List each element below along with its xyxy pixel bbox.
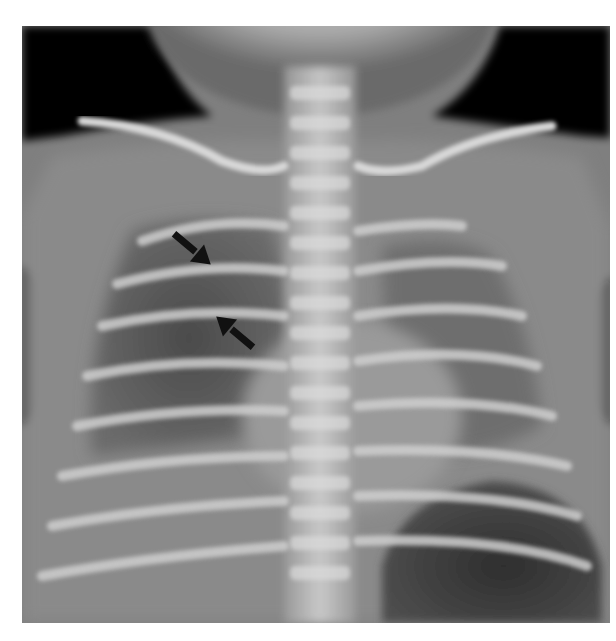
chest-xray-image <box>22 26 610 623</box>
xray-rendering <box>22 26 610 623</box>
